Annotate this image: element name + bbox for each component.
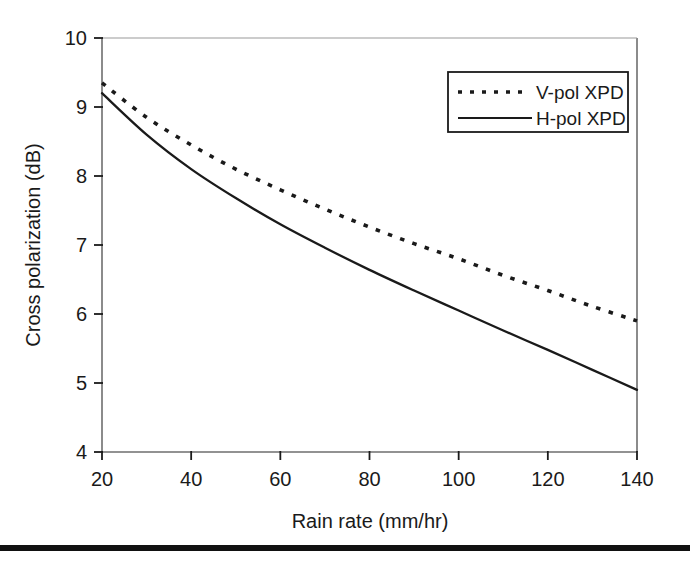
legend-label-v-pol: V-pol XPD [536, 82, 624, 103]
legend: V-pol XPD H-pol XPD [448, 72, 628, 132]
y-tick-label-8: 8 [76, 165, 87, 187]
y-tick-label-9: 9 [76, 96, 87, 118]
y-tick-label-6: 6 [76, 303, 87, 325]
x-tick-label-60: 60 [269, 468, 291, 490]
legend-label-h-pol: H-pol XPD [536, 108, 626, 129]
x-axis-tick-labels: 20406080100120140 [91, 468, 654, 490]
footer-rule [0, 545, 690, 551]
y-tick-label-5: 5 [76, 372, 87, 394]
y-tick-label-7: 7 [76, 234, 87, 256]
y-axis-title: Cross polarization (dB) [22, 143, 44, 346]
y-tick-label-4: 4 [76, 441, 87, 463]
y-axis-tick-labels: 45678910 [65, 27, 87, 463]
x-tick-label-40: 40 [180, 468, 202, 490]
x-tick-label-140: 140 [620, 468, 653, 490]
x-tick-label-100: 100 [442, 468, 475, 490]
x-tick-label-80: 80 [358, 468, 380, 490]
figure-container: 45678910 20406080100120140 Rain rate (mm… [0, 0, 690, 565]
series-line-h-pol-xpd [102, 93, 637, 390]
y-tick-label-10: 10 [65, 27, 87, 49]
x-tick-label-20: 20 [91, 468, 113, 490]
line-chart: 45678910 20406080100120140 Rain rate (mm… [0, 0, 690, 565]
x-axis-title: Rain rate (mm/hr) [292, 510, 449, 532]
x-tick-label-120: 120 [531, 468, 564, 490]
